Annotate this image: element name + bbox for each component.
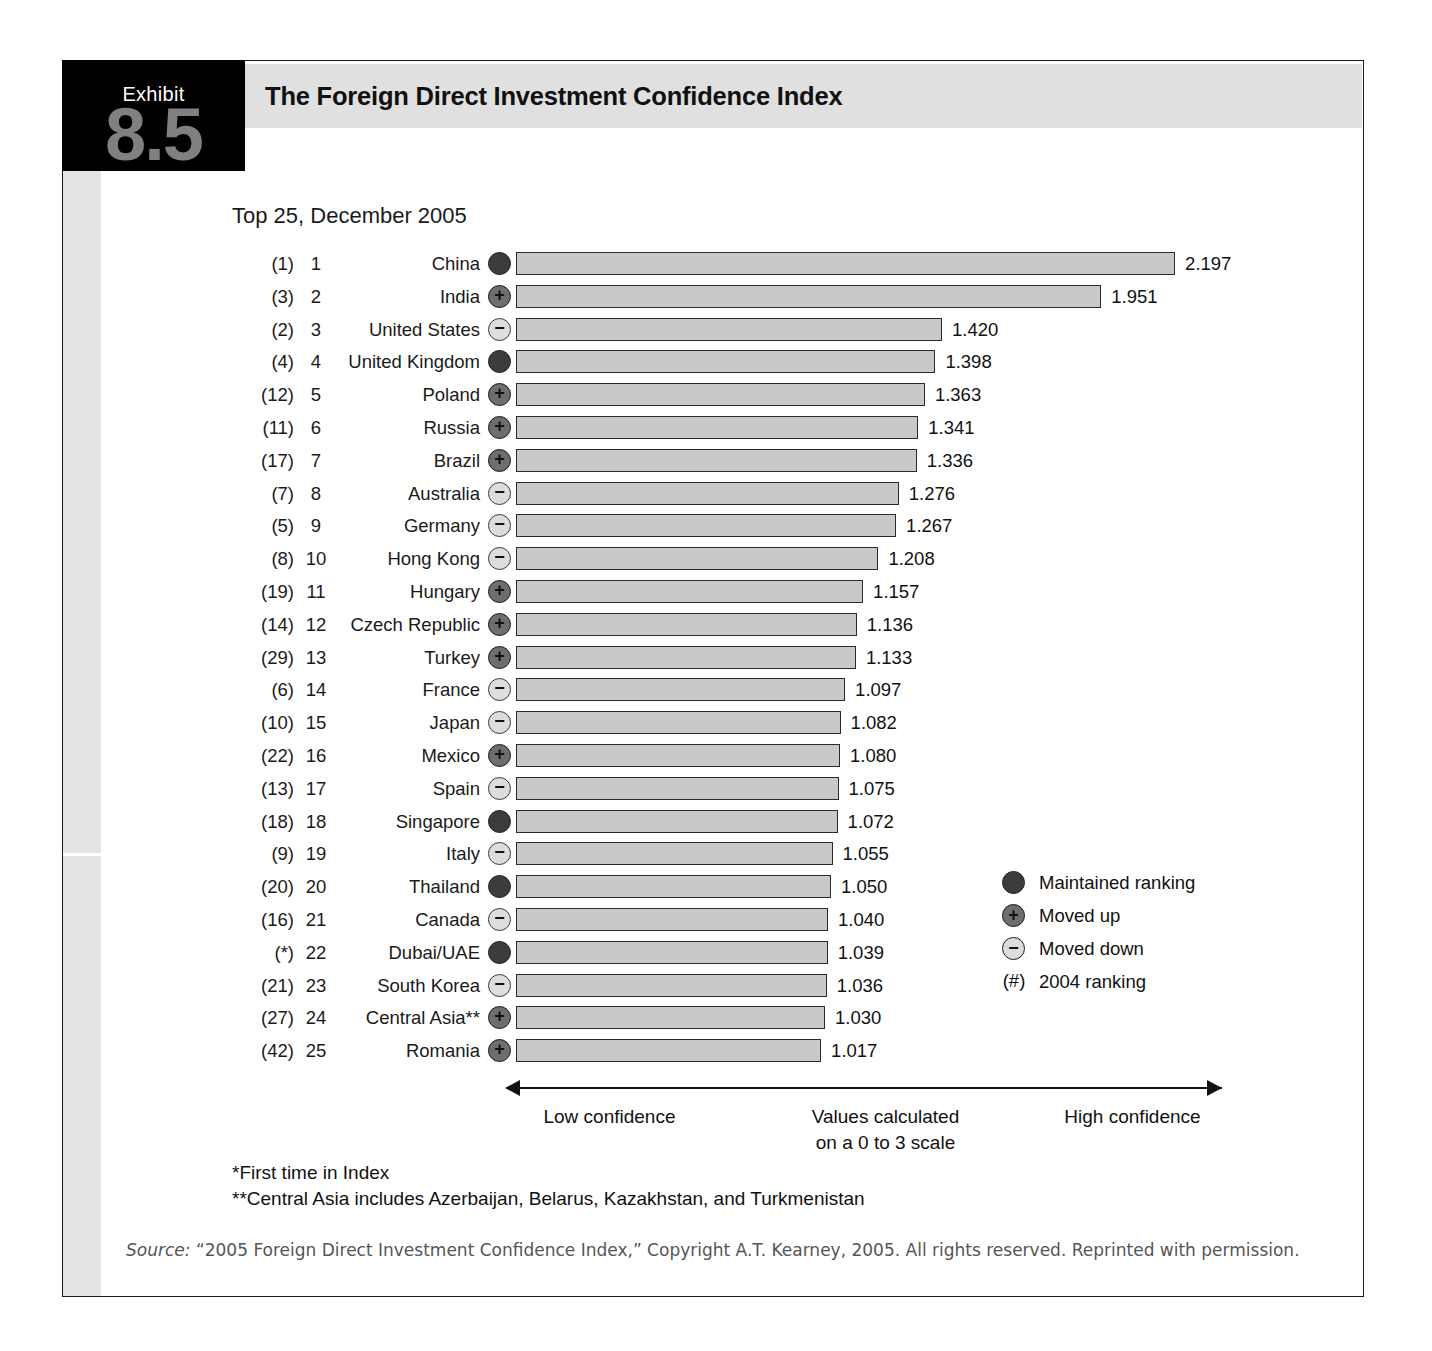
value-bar [516, 941, 828, 964]
filled-circle-icon [488, 941, 511, 964]
value-bar [516, 744, 840, 767]
country-label: Brazil [330, 450, 480, 472]
table-row: (8)10Hong Kong−1.208 [232, 544, 1332, 574]
plus-circle-icon: + [488, 1006, 511, 1029]
value-bar [516, 383, 925, 406]
table-row: (13)17Spain−1.075 [232, 774, 1332, 804]
previous-rank: (5) [232, 515, 294, 537]
current-rank: 11 [302, 581, 330, 603]
value-bar [516, 514, 896, 537]
country-label: Singapore [330, 811, 480, 833]
previous-rank: (16) [232, 909, 294, 931]
bar-value-label: 1.208 [888, 548, 934, 570]
value-bar [516, 875, 831, 898]
table-row: (29)13Turkey+1.133 [232, 643, 1332, 673]
table-row: (6)14France−1.097 [232, 675, 1332, 705]
current-rank: 18 [302, 811, 330, 833]
value-bar [516, 580, 863, 603]
previous-rank: (29) [232, 647, 294, 669]
table-row: (19)11Hungary+1.157 [232, 577, 1332, 607]
country-label: France [330, 679, 480, 701]
country-label: Russia [330, 417, 480, 439]
axis-label-middle: Values calculated on a 0 to 3 scale [778, 1104, 993, 1156]
current-rank: 14 [302, 679, 330, 701]
footnote-1: *First time in Index [232, 1160, 865, 1186]
value-bar [516, 416, 918, 439]
value-bar [516, 908, 828, 931]
previous-rank: (*) [232, 942, 294, 964]
previous-rank: (14) [232, 614, 294, 636]
previous-rank: (1) [232, 253, 294, 275]
plus-circle-icon: + [1002, 904, 1025, 927]
minus-circle-icon: − [488, 482, 511, 505]
axis-label-high: High confidence [1035, 1104, 1230, 1130]
bar-value-label: 1.951 [1111, 286, 1157, 308]
value-bar [516, 974, 827, 997]
table-row: (14)12Czech Republic+1.136 [232, 610, 1332, 640]
chart-subtitle: Top 25, December 2005 [232, 203, 467, 229]
previous-rank: (17) [232, 450, 294, 472]
value-bar [516, 810, 838, 833]
bar-value-label: 1.040 [838, 909, 884, 931]
minus-circle-icon: − [1002, 937, 1025, 960]
footnote-2: **Central Asia includes Azerbaijan, Bela… [232, 1186, 865, 1212]
value-bar [516, 482, 899, 505]
legend-label: Moved up [1039, 905, 1120, 927]
bar-value-label: 1.050 [841, 876, 887, 898]
filled-circle-icon [488, 252, 511, 275]
previous-rank: (2) [232, 319, 294, 341]
country-label: Germany [330, 515, 480, 537]
country-label: Mexico [330, 745, 480, 767]
plus-circle-icon: + [488, 383, 511, 406]
current-rank: 15 [302, 712, 330, 734]
minus-circle-icon: − [488, 908, 511, 931]
filled-circle-icon [488, 350, 511, 373]
axis-label-middle-line2: on a 0 to 3 scale [778, 1130, 993, 1156]
previous-rank: (21) [232, 975, 294, 997]
legend-label: Moved down [1039, 938, 1144, 960]
value-bar [516, 285, 1101, 308]
previous-rank: (18) [232, 811, 294, 833]
country-label: Spain [330, 778, 480, 800]
current-rank: 21 [302, 909, 330, 931]
current-rank: 24 [302, 1007, 330, 1029]
country-label: Japan [330, 712, 480, 734]
value-bar [516, 547, 878, 570]
previous-rank: (42) [232, 1040, 294, 1062]
bar-value-label: 1.075 [849, 778, 895, 800]
minus-circle-icon: − [488, 514, 511, 537]
previous-rank: (20) [232, 876, 294, 898]
plus-circle-icon: + [488, 416, 511, 439]
table-row: (*)22Dubai/UAE1.039 [232, 938, 1332, 968]
current-rank: 25 [302, 1040, 330, 1062]
country-label: Poland [330, 384, 480, 406]
table-row: (16)21Canada−1.040 [232, 905, 1332, 935]
current-rank: 23 [302, 975, 330, 997]
bar-value-label: 1.398 [945, 351, 991, 373]
value-bar [516, 318, 942, 341]
bar-value-label: 1.097 [855, 679, 901, 701]
page-title: The Foreign Direct Investment Confidence… [265, 82, 842, 111]
table-row: (5)9Germany−1.267 [232, 511, 1332, 541]
country-label: Turkey [330, 647, 480, 669]
current-rank: 17 [302, 778, 330, 800]
value-bar [516, 1006, 825, 1029]
current-rank: 5 [302, 384, 330, 406]
bar-value-label: 1.420 [952, 319, 998, 341]
previous-rank: (13) [232, 778, 294, 800]
source-note: Source: “2005 Foreign Direct Investment … [126, 1240, 1300, 1260]
bar-value-label: 1.082 [851, 712, 897, 734]
country-label: Thailand [330, 876, 480, 898]
bar-value-label: 1.030 [835, 1007, 881, 1029]
value-bar [516, 1039, 821, 1062]
country-label: South Korea [330, 975, 480, 997]
previous-rank: (10) [232, 712, 294, 734]
bar-value-label: 1.080 [850, 745, 896, 767]
axis-label-middle-line1: Values calculated [778, 1104, 993, 1130]
country-label: Czech Republic [330, 614, 480, 636]
table-row: (22)16Mexico+1.080 [232, 741, 1332, 771]
previous-rank: (11) [232, 417, 294, 439]
table-row: (10)15Japan−1.082 [232, 708, 1332, 738]
current-rank: 6 [302, 417, 330, 439]
table-row: (21)23South Korea−1.036 [232, 971, 1332, 1001]
